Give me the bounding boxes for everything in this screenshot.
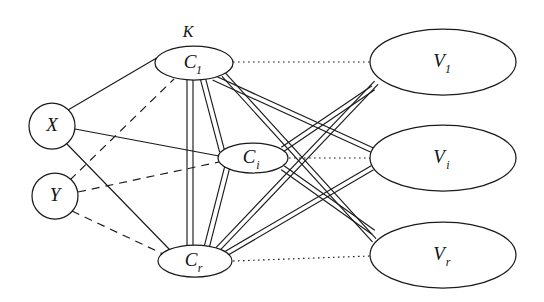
edge-ci-cr-stroke-a bbox=[204, 167, 224, 245]
dashed-edge-layer bbox=[70, 79, 219, 254]
edge-ci-cr-stroke-b bbox=[210, 169, 230, 247]
edge-ci-vr bbox=[282, 166, 375, 234]
set-label-k: K bbox=[182, 23, 195, 40]
node-vi-subscript: i bbox=[446, 158, 449, 172]
node-ci-subscript: i bbox=[256, 158, 259, 172]
node-vi[interactable]: Vi bbox=[370, 125, 516, 191]
edge-c1-vi bbox=[213, 76, 373, 152]
solid-edge-x-cr bbox=[66, 143, 170, 250]
node-c1-label: C bbox=[184, 51, 197, 72]
edge-c1-vi-stroke-b bbox=[215, 76, 373, 148]
node-layer: XYC1CiCrV1ViVr bbox=[29, 29, 516, 288]
edge-c1-ci-stroke-b bbox=[206, 78, 225, 150]
dashed-edge-y-cr bbox=[72, 211, 163, 254]
node-v1[interactable]: V1 bbox=[370, 29, 516, 95]
node-y[interactable]: Y bbox=[32, 173, 78, 219]
node-x-label: X bbox=[45, 114, 59, 135]
node-cr[interactable]: Cr bbox=[158, 245, 232, 277]
figure-canvas: XYC1CiCrV1ViVr K bbox=[0, 0, 544, 302]
node-cr-label: C bbox=[185, 249, 198, 270]
node-cr-subscript: r bbox=[198, 261, 203, 275]
edge-c1-ci bbox=[200, 78, 224, 151]
edge-ci-vr-stroke-b bbox=[284, 166, 374, 230]
graph-diagram: XYC1CiCrV1ViVr K bbox=[0, 0, 544, 302]
node-vr-subscript: r bbox=[446, 255, 451, 269]
node-c1-subscript: 1 bbox=[196, 63, 202, 77]
solid-edge-x-c1 bbox=[68, 56, 160, 110]
node-ci-label: C bbox=[243, 146, 256, 167]
set-label-layer: K bbox=[182, 23, 195, 40]
edge-ci-cr bbox=[204, 167, 229, 246]
node-vr[interactable]: Vr bbox=[370, 222, 516, 288]
node-c1[interactable]: C1 bbox=[155, 46, 233, 80]
solid-edge-x-ci bbox=[75, 129, 219, 156]
edge-c1-ci-stroke-a bbox=[200, 80, 219, 152]
dashed-edge-y-c1 bbox=[70, 79, 174, 180]
solid-edge-layer bbox=[66, 56, 219, 250]
node-v1-subscript: 1 bbox=[445, 62, 451, 76]
node-x[interactable]: X bbox=[29, 103, 75, 149]
node-ci[interactable]: Ci bbox=[218, 143, 288, 173]
dotted-edge-cr-vr bbox=[233, 256, 370, 261]
edge-c1-cr bbox=[187, 80, 193, 246]
